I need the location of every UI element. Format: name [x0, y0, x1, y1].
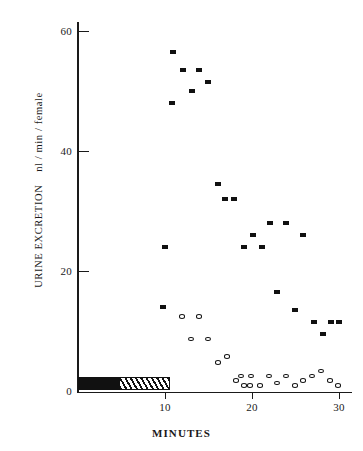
- data-point-filled-square: [189, 89, 195, 93]
- data-point-filled-square: [274, 290, 280, 294]
- data-point-filled-square: [196, 68, 202, 72]
- data-point-filled-square: [180, 68, 186, 72]
- data-point-open-circle: [274, 381, 280, 386]
- data-point-filled-square: [250, 233, 256, 237]
- data-point-open-circle: [327, 378, 333, 383]
- data-point-filled-square: [215, 182, 221, 186]
- figure-panel: 60 40 20 0 10 20 30 URINE EXCRETION nl /…: [0, 0, 363, 451]
- data-point-filled-square: [311, 320, 317, 324]
- data-point-filled-square: [169, 101, 175, 105]
- data-point-filled-square: [231, 197, 237, 201]
- data-point-filled-square: [259, 245, 265, 249]
- data-point-open-circle: [224, 354, 230, 359]
- data-point-open-circle: [247, 383, 253, 388]
- data-point-open-circle: [196, 314, 202, 319]
- data-point-open-circle: [188, 337, 194, 342]
- data-point-filled-square: [292, 308, 298, 312]
- data-point-open-circle: [335, 383, 341, 388]
- plot-area: [0, 0, 363, 451]
- data-point-open-circle: [309, 374, 315, 379]
- data-point-filled-square: [283, 221, 289, 225]
- data-point-filled-square: [267, 221, 273, 225]
- data-point-open-circle: [238, 374, 244, 379]
- data-point-filled-square: [336, 320, 342, 324]
- data-point-open-circle: [266, 374, 272, 379]
- data-point-filled-square: [205, 80, 211, 84]
- data-point-filled-square: [241, 245, 247, 249]
- data-point-filled-square: [170, 50, 176, 54]
- data-point-open-circle: [292, 383, 298, 388]
- data-point-open-circle: [233, 378, 239, 383]
- data-point-open-circle: [257, 383, 263, 388]
- data-point-filled-square: [162, 245, 168, 249]
- data-point-open-circle: [318, 369, 324, 374]
- data-point-open-circle: [241, 383, 247, 388]
- data-point-filled-square: [328, 320, 334, 324]
- data-point-open-circle: [300, 378, 306, 383]
- data-point-filled-square: [320, 332, 326, 336]
- data-point-filled-square: [222, 197, 228, 201]
- data-point-open-circle: [215, 360, 221, 365]
- data-point-open-circle: [179, 314, 185, 319]
- data-point-filled-square: [300, 233, 306, 237]
- data-point-open-circle: [283, 374, 289, 379]
- data-point-filled-square: [160, 305, 166, 309]
- data-point-open-circle: [205, 337, 211, 342]
- data-point-open-circle: [248, 374, 254, 379]
